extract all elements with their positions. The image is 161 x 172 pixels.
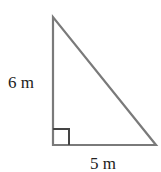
right-triangle [53,17,156,145]
vertical-side-label: 6 m [8,73,34,92]
right-angle-marker [53,129,69,145]
horizontal-side-label: 5 m [90,154,116,172]
triangle-diagram: 6 m 5 m [0,0,161,172]
